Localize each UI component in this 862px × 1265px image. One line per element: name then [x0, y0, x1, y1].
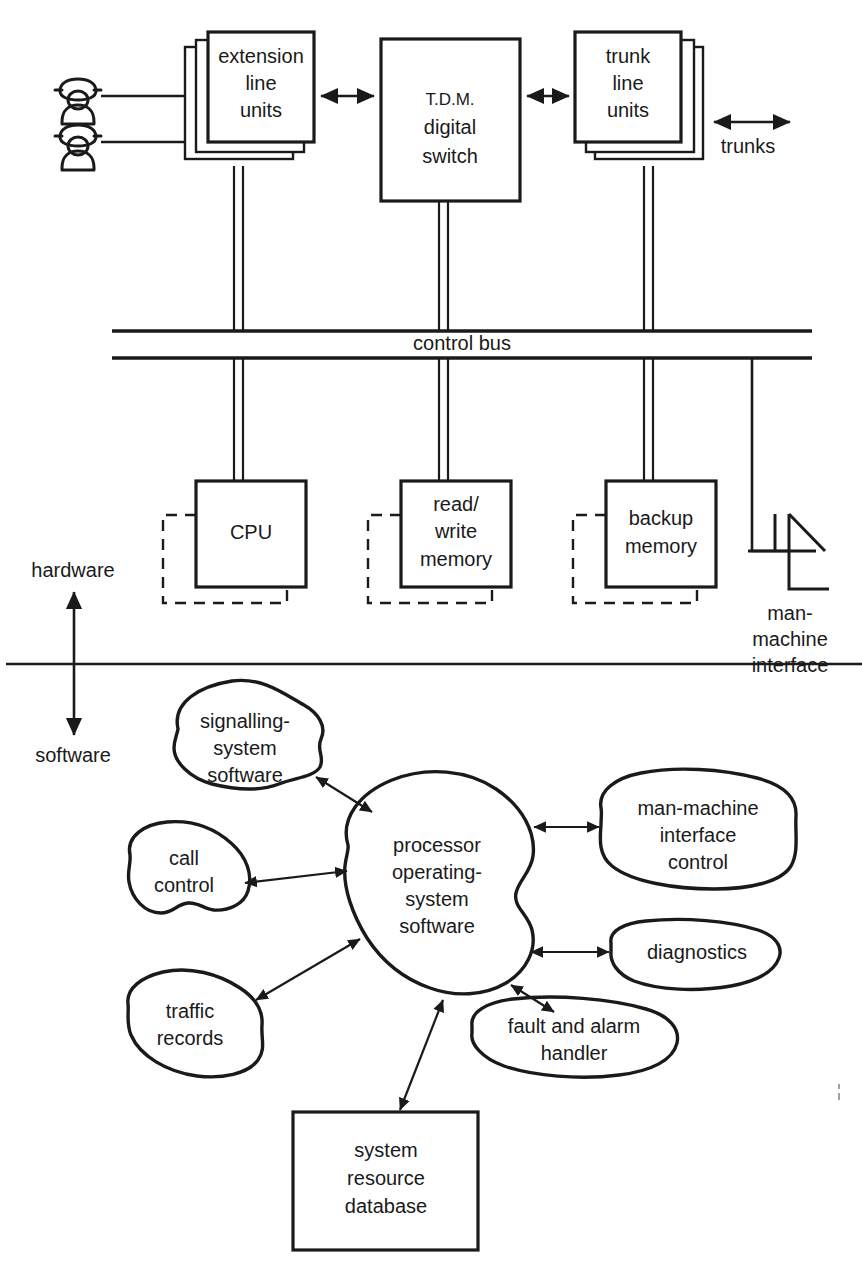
- man-machine-interface-icon: [748, 514, 829, 589]
- telephone-icon-1: [55, 79, 101, 124]
- svg-text:interface: interface: [660, 824, 737, 846]
- scan-artifact-2: [838, 1093, 840, 1100]
- svg-text:units: units: [607, 99, 649, 121]
- svg-text:signalling-: signalling-: [200, 710, 290, 732]
- bus-drop-man-machine: [752, 358, 790, 551]
- arrow-os-to-call-control: [245, 871, 347, 883]
- hardware-layer-label: hardware: [31, 559, 114, 581]
- svg-text:traffic: traffic: [166, 1000, 215, 1022]
- bus-drop-backup: [644, 358, 653, 481]
- traffic-records-blob: [128, 970, 263, 1077]
- bus-drop-memory: [439, 358, 448, 481]
- signalling-system-software-label: signalling- system software: [200, 710, 290, 786]
- svg-text:line: line: [245, 72, 276, 94]
- diagnostics-label: diagnostics: [647, 941, 747, 963]
- cpu-label: CPU: [230, 521, 272, 543]
- svg-text:man-machine: man-machine: [637, 797, 758, 819]
- svg-text:memory: memory: [420, 548, 492, 570]
- svg-text:control: control: [668, 851, 728, 873]
- backup-memory-box: [606, 481, 716, 587]
- svg-text:resource: resource: [347, 1167, 425, 1189]
- telephone-icon-2: [55, 125, 101, 170]
- control-bus-label: control bus: [413, 332, 511, 354]
- svg-text:T.D.M.: T.D.M.: [425, 90, 474, 109]
- svg-text:processor: processor: [393, 834, 481, 856]
- svg-text:machine: machine: [752, 628, 828, 650]
- svg-text:operating-: operating-: [392, 861, 482, 883]
- software-layer-label: software: [35, 744, 111, 766]
- arrow-os-to-resource-database: [400, 1000, 443, 1110]
- system-resource-database-label: system resource database: [345, 1139, 427, 1217]
- arrow-os-to-signalling: [316, 777, 372, 812]
- svg-text:units: units: [240, 99, 282, 121]
- bus-drop-extension: [234, 166, 243, 331]
- svg-text:man-: man-: [767, 602, 813, 624]
- svg-text:backup: backup: [629, 507, 694, 529]
- scan-artifact: [838, 1084, 840, 1089]
- svg-text:handler: handler: [541, 1042, 608, 1064]
- svg-text:extension: extension: [218, 45, 304, 67]
- svg-text:software: software: [399, 915, 475, 937]
- bus-drop-trunk: [644, 166, 653, 331]
- svg-text:line: line: [612, 72, 643, 94]
- svg-text:system: system: [405, 888, 468, 910]
- svg-text:memory: memory: [625, 535, 697, 557]
- svg-text:trunk: trunk: [606, 45, 651, 67]
- svg-text:control: control: [154, 874, 214, 896]
- svg-text:records: records: [157, 1027, 224, 1049]
- trunks-label: trunks: [721, 135, 775, 157]
- bus-drop-cpu: [234, 358, 243, 481]
- svg-text:read/: read/: [433, 493, 479, 515]
- svg-text:fault and alarm: fault and alarm: [508, 1015, 640, 1037]
- arrow-os-to-traffic-records: [256, 939, 360, 1000]
- bus-drop-switch: [439, 201, 448, 331]
- svg-text:digital: digital: [424, 116, 476, 138]
- svg-text:system: system: [213, 737, 276, 759]
- svg-text:write: write: [434, 520, 477, 542]
- tdm-digital-switch-label: T.D.M. digital switch: [422, 90, 478, 167]
- svg-text:switch: switch: [422, 145, 478, 167]
- architecture-diagram: extension line units T.D.M. digital swit…: [0, 0, 862, 1265]
- svg-text:system: system: [354, 1139, 417, 1161]
- svg-text:call: call: [169, 847, 199, 869]
- svg-text:software: software: [207, 764, 283, 786]
- svg-text:database: database: [345, 1195, 427, 1217]
